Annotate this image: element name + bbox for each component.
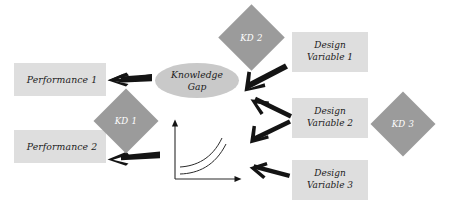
node-knowledge-gap-label-line1: Knowledge [171,69,223,80]
node-performance-1[interactable]: Performance 1 [14,63,106,96]
node-design-variable-1-label-line1: Design [314,40,346,50]
node-design-variable-3-label: Design Variable 3 [307,168,353,191]
arrow-knowledge-gap-to-performance-1 [108,73,153,87]
node-design-variable-1-label: Design Variable 1 [307,40,353,63]
node-performance-1-label: Performance 1 [27,74,98,85]
node-performance-2[interactable]: Performance 2 [14,130,106,163]
node-kd-1[interactable]: KD 1 [103,98,149,144]
node-kd-2[interactable]: KD 2 [228,14,275,61]
node-performance-2-label: Performance 2 [27,141,98,152]
node-design-variable-2-label-line1: Design [314,106,346,116]
arrow-design-variable-2-to-plot [250,120,291,144]
trade-off-curves-plot [172,120,242,183]
node-knowledge-gap[interactable]: Knowledge Gap [155,63,239,98]
node-knowledge-gap-label-line2: Gap [188,81,207,92]
node-knowledge-gap-label: Knowledge Gap [171,69,223,92]
node-kd-1-label: KD 1 [115,116,138,126]
arrow-design-variable-2-to-knowledge-gap [251,97,293,119]
node-design-variable-1[interactable]: Design Variable 1 [292,32,368,72]
node-kd-3-label: KD 3 [392,119,415,129]
node-design-variable-2[interactable]: Design Variable 2 [292,98,368,138]
node-design-variable-3-label-line2: Variable 3 [307,180,353,190]
node-kd-2-label: KD 2 [240,33,263,43]
knowledge-gap-diagram: Performance 1 Performance 2 Knowledge Ga… [0,0,450,211]
node-design-variable-3-label-line1: Design [314,168,346,178]
node-design-variable-1-label-line2: Variable 1 [307,52,353,62]
node-design-variable-3[interactable]: Design Variable 3 [292,160,368,200]
node-design-variable-2-label: Design Variable 2 [307,106,353,129]
node-kd-3[interactable]: KD 3 [380,101,426,147]
node-design-variable-2-label-line2: Variable 2 [307,118,353,128]
arrow-design-variable-3-to-plot [250,162,291,179]
arrow-plot-to-performance-2 [108,152,161,166]
